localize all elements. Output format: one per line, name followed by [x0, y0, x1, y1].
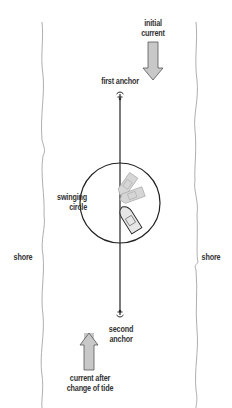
current-after-label: current after change of tide	[63, 374, 117, 393]
swinging-circle-label: swinging circle	[53, 193, 87, 212]
second-anchor-label: second anchor	[103, 325, 139, 344]
right-shore-line	[195, 22, 198, 408]
first-anchor-label: first anchor	[96, 77, 144, 87]
diagram-canvas	[0, 0, 232, 408]
current-after-arrow	[80, 333, 98, 370]
boat-current-position	[117, 204, 142, 234]
initial-current-label: initial current	[135, 19, 171, 38]
left-shore-line	[41, 22, 44, 408]
initial-current-arrow	[143, 42, 163, 80]
shore-left-label: shore	[10, 253, 36, 263]
shore-right-label: shore	[197, 253, 224, 263]
